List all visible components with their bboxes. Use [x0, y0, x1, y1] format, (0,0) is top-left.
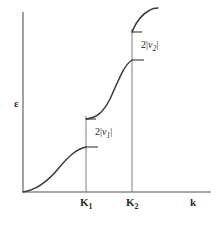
x-tick-label-k1: K1: [80, 197, 93, 211]
band-gap-label-2: 2|v2|: [141, 40, 158, 53]
y-axis-label: ε: [14, 98, 19, 109]
band-gap-label-1: 2|v1|: [95, 127, 112, 140]
x-axis-label: k: [190, 197, 196, 208]
k1-subscript: 1: [89, 202, 93, 211]
gap1-prefix: 2|: [95, 126, 102, 137]
dispersion-band-3: [132, 8, 158, 32]
gap1-suffix: |: [110, 126, 112, 137]
x-tick-label-k2: K2: [126, 197, 139, 211]
k2-base: K: [126, 196, 135, 208]
plot-canvas: [0, 0, 219, 226]
dispersion-band-1: [23, 147, 86, 192]
dispersion-band-2: [86, 60, 132, 119]
gap2-prefix: 2|: [141, 39, 148, 50]
gap2-suffix: |: [156, 39, 158, 50]
band-structure-figure: ε K1 K2 k 2|v1| 2|v2|: [0, 0, 219, 226]
k2-subscript: 2: [135, 202, 139, 211]
k1-base: K: [80, 196, 89, 208]
